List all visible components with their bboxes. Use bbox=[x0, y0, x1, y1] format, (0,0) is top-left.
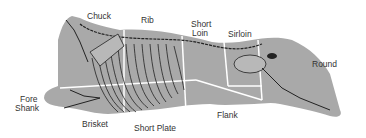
label-brisket: Brisket bbox=[82, 120, 108, 129]
label-short-loin-2: Loin bbox=[192, 29, 208, 38]
label-chuck: Chuck bbox=[87, 12, 111, 21]
label-rib: Rib bbox=[141, 16, 154, 25]
pelvis bbox=[234, 55, 266, 73]
label-flank: Flank bbox=[217, 111, 238, 120]
label-sirloin: Sirloin bbox=[228, 30, 252, 39]
label-short-plate: Short Plate bbox=[134, 124, 176, 133]
pelvis-hole bbox=[267, 53, 277, 59]
label-round: Round bbox=[312, 60, 337, 69]
label-fore-shank-2: Shank bbox=[15, 104, 39, 113]
beef-diagram bbox=[0, 0, 366, 138]
